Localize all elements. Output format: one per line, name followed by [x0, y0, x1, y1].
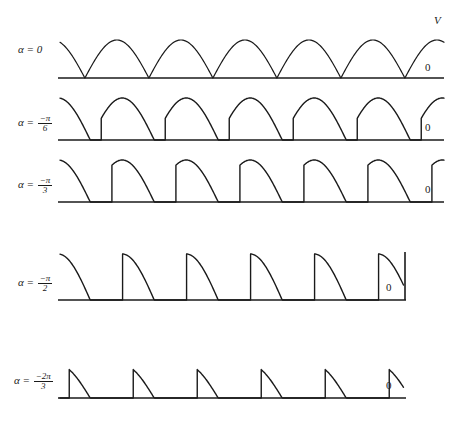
waveform-plot-row-4 — [0, 248, 454, 308]
waveform-plot-row-1 — [0, 0, 454, 95]
zero-label-row-3: 0 — [425, 184, 431, 195]
waveform-row-alpha-2pi-3: α = −2π 3 0 — [0, 355, 454, 410]
waveform-row-alpha-pi-3: α = −π 3 0 — [0, 157, 454, 212]
waveform-path-row-5 — [60, 369, 403, 398]
zero-label-row-1: 0 — [425, 62, 431, 73]
waveform-path-row-3 — [60, 160, 444, 202]
voltage-axis-label: V — [434, 15, 441, 26]
zero-label-row-2: 0 — [425, 122, 431, 133]
waveform-plot-row-3 — [0, 157, 454, 212]
waveform-figure: α = 0 V 0 α = −π 6 0 α = −π — [0, 0, 454, 431]
waveform-path-row-4 — [60, 254, 403, 300]
waveform-path-row-1 — [60, 40, 444, 78]
waveform-path-row-2 — [60, 98, 444, 140]
waveform-plot-row-2 — [0, 95, 454, 150]
zero-label-row-4: 0 — [386, 282, 392, 293]
waveform-row-alpha-0: α = 0 V 0 — [0, 0, 454, 95]
zero-label-row-5: 0 — [386, 380, 392, 391]
waveform-row-alpha-pi-2: α = −π 2 0 — [0, 248, 454, 308]
waveform-row-alpha-pi-6: α = −π 6 0 — [0, 95, 454, 150]
